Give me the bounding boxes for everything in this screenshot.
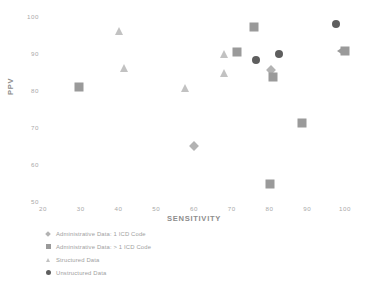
y-tick-label: 90	[31, 50, 39, 57]
data-point	[265, 180, 274, 189]
y-tick-label: 80	[31, 87, 39, 94]
x-tick-label: 70	[228, 205, 236, 212]
legend-item-label: Administrative Data: 1 ICD Code	[56, 231, 146, 237]
data-point	[115, 27, 123, 35]
data-point	[120, 64, 128, 72]
plot-area: 5060708090100 2030405060708090100	[43, 16, 345, 201]
arrow-annotation-icon	[337, 47, 343, 55]
data-point	[250, 23, 259, 32]
data-point	[332, 20, 340, 28]
y-tick-label: 70	[31, 124, 39, 131]
legend-item-3[interactable]: Unstructured Data	[46, 266, 151, 279]
x-tick-label: 90	[303, 205, 311, 212]
x-tick-label: 40	[114, 205, 122, 212]
y-tick-label: 50	[31, 198, 39, 205]
data-point	[220, 50, 228, 58]
data-point	[275, 50, 283, 58]
x-tick-label: 30	[77, 205, 85, 212]
x-tick-label: 20	[39, 205, 47, 212]
data-point	[233, 47, 242, 56]
x-tick-label: 100	[339, 205, 351, 212]
y-axis-title: PPV	[6, 78, 15, 95]
legend-item-label: Unstructured Data	[56, 270, 106, 276]
triangle-icon	[46, 258, 56, 262]
legend-item-label: Administrative Data: > 1 ICD Code	[56, 244, 151, 250]
square-icon	[46, 244, 56, 249]
diamond-icon	[46, 232, 56, 236]
x-tick-label: 80	[265, 205, 273, 212]
y-tick-label: 60	[31, 161, 39, 168]
data-point	[269, 73, 278, 82]
legend-item-0[interactable]: Administrative Data: 1 ICD Code	[46, 227, 151, 240]
y-tick-label: 100	[27, 13, 39, 20]
legend-item-1[interactable]: Administrative Data: > 1 ICD Code	[46, 240, 151, 253]
data-point	[220, 69, 228, 77]
x-tick-label: 60	[190, 205, 198, 212]
x-axis-title: SENSITIVITY	[43, 214, 345, 223]
scatter-chart: PPV SENSITIVITY 5060708090100 2030405060…	[0, 0, 369, 292]
legend-item-label: Structured Data	[56, 257, 100, 263]
x-tick-label: 50	[152, 205, 160, 212]
data-point	[74, 83, 83, 92]
data-point	[189, 141, 199, 151]
data-point	[252, 56, 260, 64]
legend-item-2[interactable]: Structured Data	[46, 253, 151, 266]
chart-legend: Administrative Data: 1 ICD CodeAdministr…	[46, 227, 151, 279]
circle-icon	[46, 270, 56, 275]
data-point	[297, 119, 306, 128]
data-point	[181, 84, 189, 92]
